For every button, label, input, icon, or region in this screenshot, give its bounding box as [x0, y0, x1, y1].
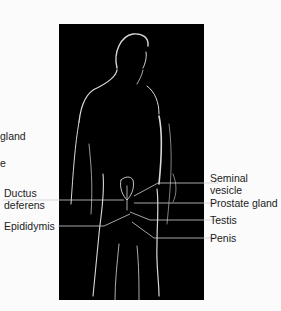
- label-testis: Testis: [210, 214, 237, 226]
- label-ductus-deferens: Ductus deferens: [4, 187, 45, 211]
- label-penis: Penis: [210, 232, 236, 244]
- label-seminal-vesicle: Seminal vesicle: [210, 172, 248, 196]
- label-seminal-vesicle-line2: vesicle: [210, 184, 248, 196]
- label-epididymis: Epididymis: [4, 220, 55, 232]
- label-prostate-gland: Prostate gland: [210, 197, 278, 209]
- label-ductus-deferens-line2: deferens: [4, 199, 45, 211]
- label-partial-e: e: [0, 157, 6, 169]
- label-ductus-deferens-line1: Ductus: [4, 187, 45, 199]
- label-seminal-vesicle-line1: Seminal: [210, 172, 248, 184]
- leader-lines: [0, 0, 281, 311]
- label-gland-partial: gland: [0, 130, 26, 142]
